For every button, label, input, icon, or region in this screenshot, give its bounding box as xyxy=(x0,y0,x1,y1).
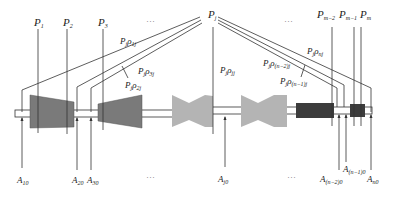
label-Pm: Pm xyxy=(359,8,372,21)
label-A10: A10 xyxy=(16,175,29,186)
label-rho3j: Pjρ3j xyxy=(137,66,155,77)
label-A20: A20 xyxy=(71,175,84,186)
ellipsis-top-2: ··· xyxy=(284,16,293,26)
diagram-canvas: P1 P2 P3 Pj Pm−2 Pm−1 Pm ··· ··· Pjρ1j P… xyxy=(0,0,394,197)
label-rhojj: Pjρjj xyxy=(219,65,235,76)
label-rho-n1: Pjρ(n−1)j xyxy=(279,76,308,88)
label-An-1: A(n−1)0 xyxy=(342,164,366,176)
label-rho-n: Pjρnj xyxy=(306,46,324,57)
top-labels: P1 P2 P3 Pj Pm−2 Pm−1 Pm ··· ··· xyxy=(33,8,372,29)
label-Pm-2: Pm−2 xyxy=(316,8,335,21)
label-A30: A30 xyxy=(86,175,99,186)
label-An-2: A(n−2)0 xyxy=(319,174,343,186)
label-An0: An0 xyxy=(366,174,379,185)
rho-lines-right xyxy=(218,17,371,112)
label-Aj0: Aj0 xyxy=(217,174,228,185)
label-Pj: Pj xyxy=(207,8,217,21)
label-P3: P3 xyxy=(97,16,108,29)
bottom-labels: A10 A20 A30 Aj0 A(n−2)0 A(n−1)0 An0 ··· … xyxy=(16,164,379,186)
label-rho1j: Pjρ1j xyxy=(119,36,137,47)
label-P2: P2 xyxy=(62,16,73,29)
block-large xyxy=(296,103,334,118)
ellipsis-top-1: ··· xyxy=(146,16,155,26)
label-rho-n2: Pjρ(n−2)j xyxy=(262,58,291,70)
label-P1: P1 xyxy=(33,16,44,29)
stage-2-tapered xyxy=(98,95,142,128)
stage-bowtie-2 xyxy=(241,95,287,127)
block-small xyxy=(350,104,365,117)
label-rho2j: Pjρ2j xyxy=(124,80,142,91)
stage-bowtie-1 xyxy=(172,95,213,127)
ellipsis-bottom-1: ··· xyxy=(146,172,155,182)
shaft-load-diagram: P1 P2 P3 Pj Pm−2 Pm−1 Pm ··· ··· Pjρ1j P… xyxy=(0,0,394,197)
label-Pm-1: Pm−1 xyxy=(338,8,357,21)
ellipsis-bottom-2: ··· xyxy=(287,172,296,182)
